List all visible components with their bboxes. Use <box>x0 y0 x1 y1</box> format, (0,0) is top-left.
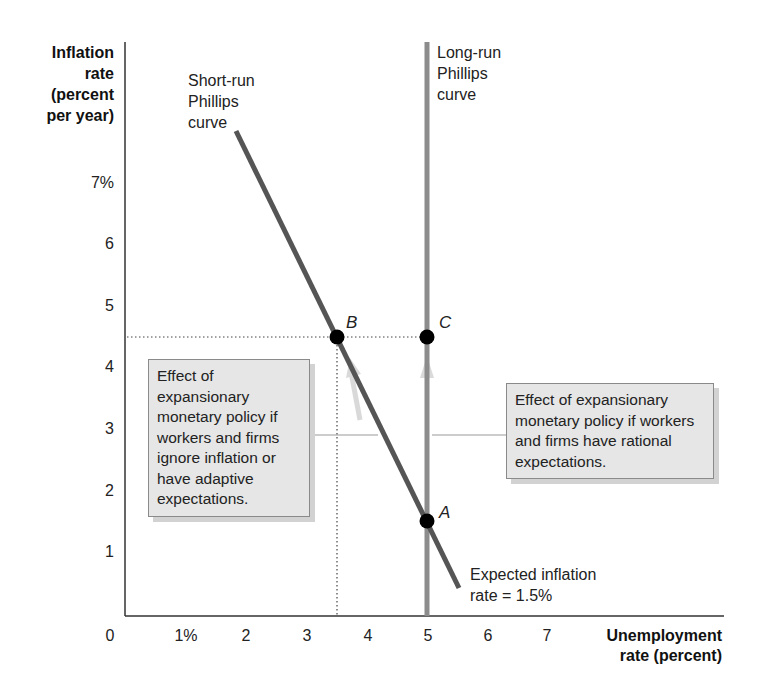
y-axis-label-line: per year) <box>4 105 114 126</box>
point-a-marker <box>420 514 435 529</box>
y-tick: 3 <box>78 420 114 438</box>
point-c-label: C <box>439 313 451 333</box>
y-tick: 7% <box>78 174 114 192</box>
y-axis-label-line: Inflation <box>4 42 114 63</box>
y-tick: 1 <box>78 543 114 561</box>
label-line: Long-run <box>437 42 501 63</box>
short-run-curve-label: Short-run Phillips curve <box>188 70 255 133</box>
x-tick: 7 <box>527 627 567 645</box>
label-line: Phillips <box>437 63 501 84</box>
y-axis-label-line: rate <box>4 63 114 84</box>
label-line: curve <box>437 84 501 105</box>
x-tick: 2 <box>226 627 266 645</box>
y-tick: 5 <box>78 297 114 315</box>
y-axis-label-line: (percent <box>4 84 114 105</box>
x-axis-label: Unemployment rate (percent) <box>606 626 722 666</box>
x-axis-label-line: rate (percent) <box>606 646 722 666</box>
label-line: Short-run <box>188 70 255 91</box>
chart-canvas <box>0 0 766 700</box>
x-tick: 5 <box>408 627 448 645</box>
expected-inflation-label: Expected inflation rate = 1.5% <box>470 564 596 606</box>
x-tick: 4 <box>348 627 388 645</box>
label-line: Phillips <box>188 91 255 112</box>
point-c-marker <box>420 330 435 345</box>
y-tick: 6 <box>78 235 114 253</box>
x-tick: 1% <box>166 627 206 645</box>
label-line: Expected inflation <box>470 564 596 585</box>
annotation-box-rational: Effect of expansionary monetary policy i… <box>506 383 714 479</box>
point-b-marker <box>330 330 345 345</box>
x-tick: 6 <box>468 627 508 645</box>
x-tick: 3 <box>287 627 327 645</box>
y-tick: 2 <box>78 482 114 500</box>
label-line: curve <box>188 112 255 133</box>
y-tick: 4 <box>78 358 114 376</box>
long-run-curve-label: Long-run Phillips curve <box>437 42 501 105</box>
point-b-label: B <box>346 313 357 333</box>
x-axis-label-line: Unemployment <box>606 626 722 646</box>
point-a-label: A <box>439 503 450 523</box>
y-axis-label: Inflation rate (percent per year) <box>4 42 114 126</box>
label-line: rate = 1.5% <box>470 585 596 606</box>
annotation-box-adaptive: Effect of expansionary monetary policy i… <box>148 359 310 517</box>
x-tick: 0 <box>90 627 130 645</box>
